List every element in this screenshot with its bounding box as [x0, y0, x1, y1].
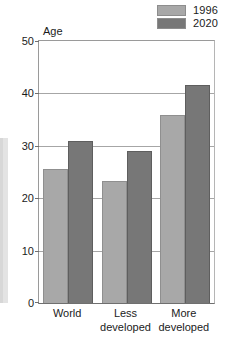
bar-1996-world	[43, 169, 68, 303]
x-axis-tick-labels: WorldLess developedMore developed	[38, 306, 215, 350]
legend-swatch-1996-icon	[157, 5, 186, 16]
chart-legend: 1996 2020	[157, 4, 218, 29]
y-axis-tick-label: 30	[22, 140, 34, 152]
y-axis-title: Age	[43, 25, 63, 37]
legend-swatch-2020-icon	[157, 18, 186, 29]
bar-2020-more-developed	[185, 85, 210, 303]
bar-chart-figure: 1996 2020 Age 01020304050 WorldLess deve…	[0, 0, 239, 351]
y-axis-tick-label: 50	[22, 35, 34, 47]
legend-item-1996: 1996	[157, 4, 218, 16]
y-axis-tick-label: 40	[22, 87, 34, 99]
bar-2020-world	[68, 141, 93, 303]
plot-area: 01020304050	[38, 40, 215, 304]
bar-1996-more-developed	[160, 115, 185, 303]
y-axis-tick-label: 0	[28, 297, 34, 309]
legend-label-1996: 1996	[193, 4, 218, 16]
x-axis-tick-label: More developed	[158, 306, 209, 334]
bars-group	[39, 41, 214, 303]
x-axis-tick-label: World	[53, 306, 82, 320]
legend-item-2020: 2020	[157, 17, 218, 29]
y-axis-tick-label: 10	[22, 245, 34, 257]
bar-2020-less-developed	[127, 151, 152, 303]
page-edge-artifact-inner	[0, 138, 3, 303]
legend-label-2020: 2020	[193, 17, 218, 29]
x-axis-tick-label: Less developed	[100, 306, 151, 334]
y-axis-tick-label: 20	[22, 192, 34, 204]
bar-1996-less-developed	[102, 181, 127, 303]
